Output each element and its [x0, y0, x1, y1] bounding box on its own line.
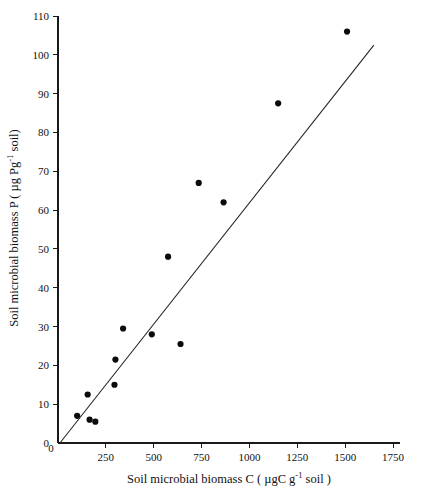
y-tick-label: 40: [38, 282, 50, 294]
data-point: [111, 382, 117, 388]
y-tick-label: 110: [33, 10, 50, 22]
x-tick-label: 1250: [286, 451, 309, 463]
y-tick-label: 70: [38, 165, 50, 177]
trend-line: [60, 45, 374, 443]
data-point: [74, 413, 80, 419]
y-tick-label: 90: [38, 88, 50, 100]
x-tick-label: 1750: [382, 451, 405, 463]
scatter-chart: 0102030405060708090100110 02505007501000…: [0, 0, 423, 493]
superscript: -1: [5, 155, 15, 162]
x-axis-label: Soil microbial biomass C ( µgC g-1 soil …: [127, 470, 331, 486]
x-tick-label: 1500: [334, 451, 357, 463]
chart-svg: 0102030405060708090100110 02505007501000…: [0, 0, 423, 493]
x-tick-label: 1000: [238, 451, 261, 463]
data-point: [344, 28, 350, 34]
origin-tick-label: 0: [48, 442, 54, 454]
x-tick-label: 500: [145, 451, 162, 463]
y-axis-ticks: 0102030405060708090100110: [33, 10, 59, 449]
data-point: [275, 100, 281, 106]
data-points-group: [74, 28, 350, 424]
superscript: -1: [295, 470, 302, 480]
data-point: [85, 391, 91, 397]
y-tick-label: 60: [38, 204, 50, 216]
data-point: [196, 180, 202, 186]
y-tick-label: 10: [38, 398, 50, 410]
trend-line-group: [60, 45, 374, 443]
y-axis-label: Soil microbial biomass P ( µg Pg-1 soil): [5, 129, 21, 327]
y-tick-label: 30: [38, 321, 50, 333]
data-point: [165, 254, 171, 260]
data-point: [220, 199, 226, 205]
x-tick-label: 750: [193, 451, 210, 463]
y-tick-label: 80: [38, 126, 50, 138]
y-tick-label: 20: [38, 359, 50, 371]
data-point: [86, 417, 92, 423]
data-point: [112, 356, 118, 362]
x-axis-ticks: 02505007501000125015001750: [48, 442, 404, 463]
data-point: [120, 325, 126, 331]
data-point: [177, 341, 183, 347]
y-tick-label: 100: [33, 49, 50, 61]
y-tick-label: 50: [38, 243, 50, 255]
x-tick-label: 250: [98, 451, 115, 463]
data-point: [92, 419, 98, 425]
data-point: [149, 331, 155, 337]
